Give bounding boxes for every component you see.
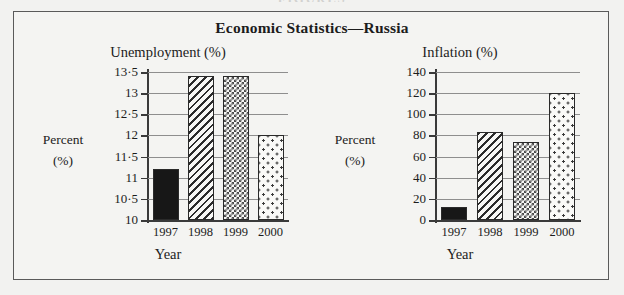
y-axis-title-inflation: Percent (%) [318, 130, 392, 172]
y-axis-tick [429, 220, 436, 222]
y-axis-title-line1: Percent [26, 130, 100, 151]
y-axis-title-line1: Percent [318, 130, 392, 151]
y-tick-label: 13 [125, 85, 138, 101]
x-axis-title-unemployment: Year [20, 246, 316, 263]
x-tick-label: 2000 [254, 225, 288, 240]
y-tick-label: 11 [125, 170, 138, 186]
y-axis-tick [429, 93, 436, 95]
y-axis-title-unemployment: Percent (%) [26, 130, 100, 172]
y-axis-tick [141, 93, 148, 95]
x-tick-label: 2000 [545, 225, 579, 240]
y-tick-label: 20 [413, 191, 426, 207]
x-tick-label: 1997 [437, 225, 471, 240]
chart-subtitle-unemployment: Unemployment (%) [20, 44, 316, 61]
bar-1998 [188, 76, 214, 220]
y-tick-label: 120 [407, 85, 427, 101]
y-tick-label: 13·5 [114, 64, 138, 80]
x-tick-label: 1998 [184, 225, 218, 240]
y-tick-label: 80 [413, 127, 426, 143]
y-tick-label: 140 [407, 64, 427, 80]
y-tick-label: 12·5 [114, 106, 138, 122]
figure-panel: Economic Statistics—Russia Unemployment … [13, 11, 609, 280]
y-tick-label: 10·5 [114, 191, 138, 207]
y-axis-tick [141, 72, 148, 74]
x-tick-label: 1999 [219, 225, 253, 240]
running-head: FIGURES [0, 0, 624, 2]
x-tick-label: 1999 [509, 225, 543, 240]
bar-group-inflation [436, 72, 580, 220]
y-tick-label: 11·5 [115, 149, 138, 165]
y-axis-tick [429, 135, 436, 137]
x-axis-line [141, 220, 289, 222]
y-tick-label: 0 [420, 212, 427, 228]
y-axis-title-line2: (%) [318, 151, 392, 172]
x-tick-labels-unemployment: 1997199819992000 [148, 225, 288, 240]
x-tick-label: 1998 [473, 225, 507, 240]
y-axis-tick [429, 72, 436, 74]
y-axis-tick [141, 135, 148, 137]
bar-group-unemployment [148, 72, 288, 220]
y-axis-tick [141, 178, 148, 180]
y-axis-tick [429, 114, 436, 116]
y-axis-tick [429, 178, 436, 180]
y-axis-tick [141, 114, 148, 116]
y-tick-label: 60 [413, 149, 426, 165]
x-axis-line [429, 220, 581, 222]
y-axis-tick [429, 199, 436, 201]
chart-inflation: Inflation (%) Percent (%) 02040608010012… [314, 44, 606, 276]
y-tick-label: 100 [407, 106, 427, 122]
chart-unemployment: Unemployment (%) Percent (%) 1010·51111·… [20, 44, 316, 276]
x-tick-label: 1997 [149, 225, 183, 240]
y-axis-title-line2: (%) [26, 151, 100, 172]
x-tick-labels-inflation: 1997199819992000 [436, 225, 580, 240]
bar-1997 [153, 169, 179, 220]
y-tick-label: 12 [125, 127, 138, 143]
bar-1997 [441, 207, 467, 220]
bar-2000 [258, 135, 284, 220]
plot-area-unemployment: 1010·51111·51212·51313·5 [148, 72, 288, 220]
bar-2000 [549, 93, 575, 220]
y-tick-label: 10 [125, 212, 138, 228]
bar-1999 [513, 142, 539, 220]
y-axis-tick [141, 220, 148, 222]
chart-subtitle-inflation: Inflation (%) [314, 44, 606, 61]
x-axis-title-inflation: Year [314, 246, 606, 263]
y-axis-tick [429, 157, 436, 159]
bar-1999 [223, 76, 249, 220]
y-axis-tick [141, 199, 148, 201]
plot-area-inflation: 020406080100120140 [436, 72, 580, 220]
bar-1998 [477, 132, 503, 220]
y-axis-tick [141, 157, 148, 159]
y-tick-label: 40 [413, 170, 426, 186]
figure-title: Economic Statistics—Russia [14, 19, 610, 37]
